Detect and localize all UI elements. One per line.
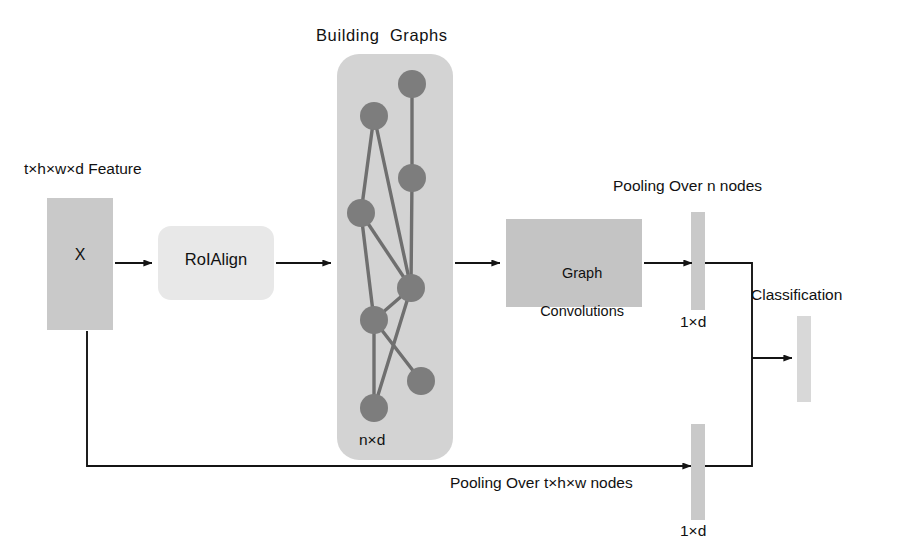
roialign-label: RoIAlign xyxy=(167,250,265,268)
pooled-bar-top xyxy=(691,212,705,310)
diagram-canvas: t×h×w×d Feature X RoIAlign Building Grap… xyxy=(0,0,904,549)
feature-block xyxy=(47,198,113,330)
graph-convolutions-line2: Convolutions xyxy=(540,303,624,319)
pooled-top-dims-label: 1×d xyxy=(680,313,706,330)
feature-block-label: X xyxy=(47,246,113,264)
classification-label: Classification xyxy=(751,286,842,303)
graph-node xyxy=(360,394,388,422)
graph-panel xyxy=(337,54,453,460)
graph-node xyxy=(398,70,426,98)
pooling-over-thw-label: Pooling Over t×h×w nodes xyxy=(450,474,633,491)
diagram-graphics xyxy=(0,0,904,549)
graph-node xyxy=(397,274,425,302)
merge-bottom-branch xyxy=(705,358,752,466)
graph-panel-dims-label: n×d xyxy=(359,431,385,448)
classification-bar xyxy=(797,316,811,402)
pooled-bar-bottom xyxy=(691,424,705,520)
feature-input-label: t×h×w×d Feature xyxy=(24,160,142,177)
pooled-bottom-dims-label: 1×d xyxy=(680,522,706,539)
graph-node xyxy=(360,102,388,130)
graph-node xyxy=(347,199,375,227)
graph-node xyxy=(398,164,426,192)
merge-top-branch xyxy=(705,263,752,358)
graph-convolutions-line1: Graph xyxy=(562,265,602,281)
graph-node xyxy=(360,306,388,334)
graph-node xyxy=(407,367,435,395)
pooling-over-n-label: Pooling Over n nodes xyxy=(613,177,762,194)
graph-convolutions-label: Graph Convolutions xyxy=(508,245,640,339)
building-graphs-title: Building Graphs xyxy=(316,26,448,44)
